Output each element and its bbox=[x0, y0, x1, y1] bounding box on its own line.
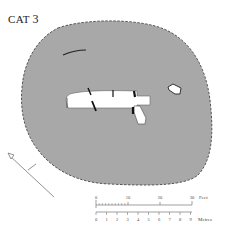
metres-tick-label: 6 bbox=[158, 217, 161, 222]
cave-plan: 0 10 20 30 Feet 0 1 2 3 4 5 6 7 8 9 Metr… bbox=[0, 0, 228, 232]
metres-tick-label: 1 bbox=[105, 217, 107, 222]
metres-tick-label: 0 bbox=[95, 217, 98, 222]
feet-tick-label: 0 bbox=[95, 195, 98, 200]
metres-tick-label: 9 bbox=[189, 217, 192, 222]
feet-unit-label: Feet bbox=[199, 195, 208, 200]
metres-tick-label: 5 bbox=[147, 217, 150, 222]
metres-unit-label: Metres bbox=[198, 217, 212, 222]
metres-tick-label: 8 bbox=[179, 217, 182, 222]
feet-tick-label: 30 bbox=[190, 195, 195, 200]
slash-mark bbox=[134, 91, 135, 97]
metres-tick-label: 7 bbox=[168, 217, 171, 222]
feet-tick-label: 10 bbox=[126, 195, 131, 200]
metres-tick-label: 2 bbox=[116, 217, 118, 222]
metres-tick-label: 4 bbox=[137, 217, 140, 222]
metres-tick-label: 3 bbox=[126, 217, 129, 222]
feet-tick-label: 20 bbox=[158, 195, 163, 200]
scale-bar: 0 10 20 30 Feet 0 1 2 3 4 5 6 7 8 9 Metr… bbox=[95, 195, 212, 222]
